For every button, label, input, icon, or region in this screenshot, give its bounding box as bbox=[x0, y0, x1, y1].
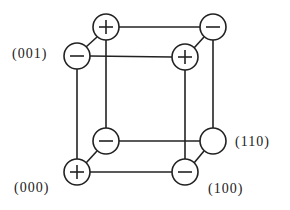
vertex-front-bottom-right bbox=[172, 159, 198, 185]
vertex-back-top-left bbox=[93, 14, 119, 40]
vertex-front-top-right bbox=[172, 44, 198, 70]
edge-depth-bottom-left bbox=[86, 151, 97, 163]
vertex-back-top-right bbox=[200, 14, 226, 40]
edge-depth-top-left bbox=[86, 37, 97, 47]
edge-depth-bottom-right bbox=[194, 151, 204, 163]
edge-depth-top-right bbox=[194, 37, 204, 48]
label-100: (100) bbox=[208, 181, 243, 197]
edge-front-top bbox=[90, 56, 172, 57]
vertex-front-top-left bbox=[64, 43, 90, 69]
vertex-back-bottom-left bbox=[93, 128, 119, 154]
label-001: (001) bbox=[12, 46, 47, 62]
label-110: (110) bbox=[235, 134, 270, 150]
label-000: (000) bbox=[14, 180, 49, 196]
cube-diagram bbox=[0, 0, 290, 210]
vertex-front-bottom-left bbox=[64, 159, 90, 185]
vertex-back-bottom-right bbox=[200, 128, 226, 154]
